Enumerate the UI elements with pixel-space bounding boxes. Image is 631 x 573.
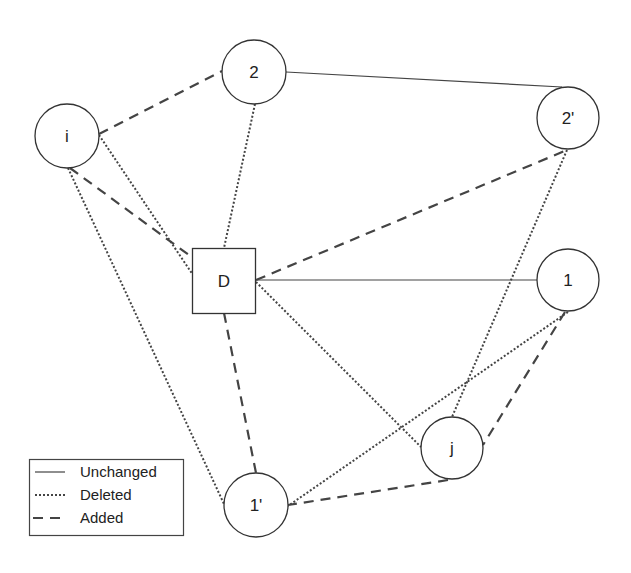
edge-deleted-D-j	[256, 282, 421, 447]
edge-deleted-1-1p	[288, 312, 568, 506]
node-label: i	[65, 127, 69, 146]
node-label: 1'	[250, 496, 263, 515]
legend: Unchanged Deleted Added	[30, 460, 184, 536]
node-label: D	[218, 272, 230, 291]
legend-label-deleted: Deleted	[80, 486, 132, 503]
legend-label-unchanged: Unchanged	[80, 463, 157, 480]
node-2: 2	[222, 40, 286, 104]
edge-unchanged-2-2p	[286, 72, 562, 87]
diagram-canvas: 2i2'D1j1' Unchanged Deleted Added	[0, 0, 631, 573]
node-D: D	[193, 249, 256, 314]
node-label: 1	[563, 271, 572, 290]
node-label: 2	[249, 63, 258, 82]
edge-deleted-i-1p	[68, 168, 224, 504]
edge-added-j-1p	[288, 480, 448, 505]
node-1p: 1'	[224, 473, 288, 537]
edges-layer	[68, 71, 568, 506]
edge-added-D-1p	[224, 313, 256, 473]
node-label: 2'	[562, 109, 575, 128]
node-1: 1	[537, 249, 599, 311]
legend-label-added: Added	[80, 509, 123, 526]
edge-added-i-2	[99, 71, 222, 134]
edge-added-D-2p	[256, 150, 567, 280]
node-j: j	[421, 417, 483, 479]
node-label: j	[449, 439, 454, 458]
edge-deleted-i-D	[99, 135, 193, 275]
graph-diagram: 2i2'D1j1' Unchanged Deleted Added	[0, 0, 631, 573]
edge-deleted-2-D	[224, 104, 255, 248]
node-i: i	[35, 104, 99, 168]
node-2p: 2'	[537, 87, 599, 149]
edge-added-1-j	[483, 312, 565, 445]
